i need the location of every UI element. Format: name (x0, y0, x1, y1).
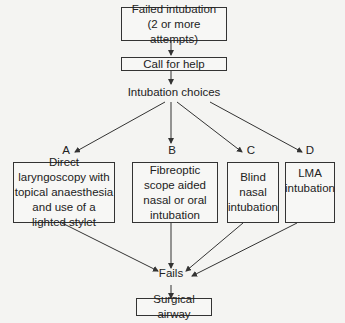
option-a-box: Direct laryngoscopy with topical anaesth… (13, 162, 115, 223)
intubation-choices-label: Intubation choices (120, 86, 228, 98)
option-d-letter: D (304, 144, 316, 156)
option-b-letter: B (166, 144, 178, 156)
option-c-box: Blind nasal intubation (227, 162, 279, 223)
start-line2: (2 or more attempts) (122, 17, 226, 47)
call-for-help-box: Call for help (121, 57, 227, 71)
surgical-airway-box: Surgical airway (136, 298, 212, 316)
start-line1: Failed intubation (132, 2, 216, 17)
option-b-box: Fibreoptic scope aided nasal or oral int… (132, 162, 218, 223)
option-d-box: LMA intubation (285, 162, 335, 223)
option-c-letter: C (245, 144, 257, 156)
fails-label: Fails (155, 267, 187, 279)
failed-intubation-box: Failed intubation (2 or more attempts) (121, 7, 227, 41)
